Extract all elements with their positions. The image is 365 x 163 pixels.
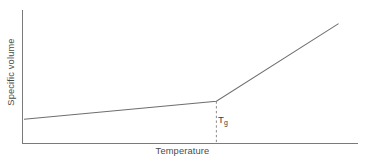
chart-canvas: [0, 0, 365, 163]
tg-annotation-label: Tg: [218, 115, 228, 126]
tg-symbol: T: [218, 114, 224, 125]
chart-figure: Specific volume Temperature Tg: [0, 0, 365, 163]
y-axis-title-container: Specific volume: [0, 0, 22, 143]
specific-volume-curve: [24, 24, 339, 120]
y-axis-title: Specific volume: [6, 38, 16, 105]
tg-subscript: g: [224, 119, 228, 126]
x-axis-title: Temperature: [0, 146, 365, 156]
